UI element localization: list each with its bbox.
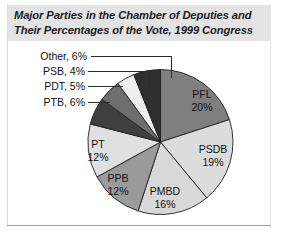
slice-label-pmbd-name: PMBD (150, 185, 180, 197)
slice-label-pfl-value: 20% (191, 101, 212, 113)
leader-line-psb-vertical (149, 71, 150, 88)
leader-line-ptb-horizontal (88, 102, 110, 103)
slice-label-pt: PT 12% (78, 138, 118, 163)
slice-label-psdb-value: 19% (202, 156, 223, 168)
slice-label-psb: PSB, 4% (0, 65, 85, 77)
pie-chart-figure: Major Parties in the Chamber of Deputies… (0, 0, 281, 244)
slice-label-pt-value: 12% (87, 151, 108, 163)
slice-label-psdb-name: PSDB (199, 143, 228, 155)
slice-label-pmbd: PMBD 16% (139, 185, 191, 210)
slice-label-pdt: PDT, 5% (0, 80, 85, 92)
slice-label-pt-name: PT (91, 138, 104, 150)
slice-label-pfl: PFL 20% (180, 88, 224, 113)
slice-label-ppb-value: 12% (107, 185, 128, 197)
slice-label-psdb: PSDB 19% (188, 143, 238, 168)
slice-label-other: Other, 6% (0, 50, 87, 62)
slice-label-ppb: PPB 12% (97, 172, 139, 197)
leader-line-psb-horizontal (88, 71, 150, 72)
leader-line-other-horizontal (91, 56, 172, 57)
slice-label-ppb-name: PPB (107, 172, 128, 184)
slice-label-pfl-name: PFL (192, 88, 211, 100)
leader-line-other-vertical (171, 56, 172, 78)
leader-line-pdt-horizontal (88, 86, 123, 87)
slice-label-pmbd-value: 16% (154, 198, 175, 210)
slice-label-ptb: PTB, 6% (0, 96, 85, 108)
